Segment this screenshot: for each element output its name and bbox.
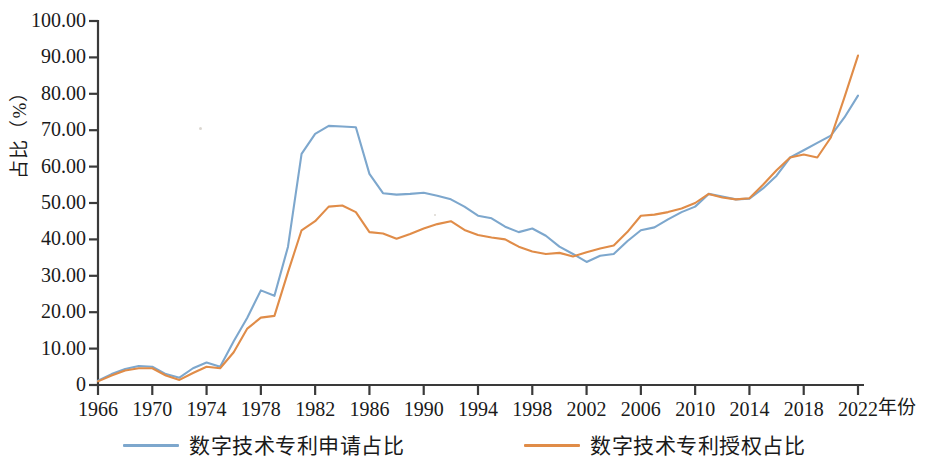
legend-label-application: 数字技术专利申请占比 bbox=[189, 435, 404, 457]
legend-item-grant[interactable]: 数字技术专利授权占比 bbox=[524, 435, 805, 457]
legend-label-grant: 数字技术专利授权占比 bbox=[590, 435, 805, 457]
chart-figure: 占比（%） 010.0020.0030.0040.0050.0060.0070.… bbox=[0, 0, 928, 461]
axis-ticks bbox=[89, 21, 858, 395]
axes-lines bbox=[98, 20, 864, 385]
legend-swatch-grant bbox=[524, 444, 580, 447]
chart-legend: 数字技术专利申请占比 数字技术专利授权占比 bbox=[0, 430, 928, 461]
plot-area bbox=[0, 0, 928, 461]
legend-item-application[interactable]: 数字技术专利申请占比 bbox=[123, 435, 404, 457]
data-series bbox=[98, 56, 858, 382]
series-line-grant bbox=[98, 56, 858, 382]
legend-swatch-application bbox=[123, 444, 179, 447]
series-line-application bbox=[98, 96, 858, 381]
